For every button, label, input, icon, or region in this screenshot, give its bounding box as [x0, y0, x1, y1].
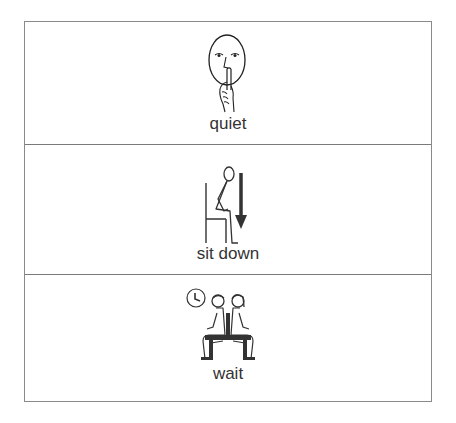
two-people-on-bench-clock-icon: [187, 289, 269, 361]
symbol-label: wait: [25, 364, 431, 384]
symbol-label: sit down: [25, 244, 431, 264]
symbol-card-sit-down[interactable]: sit down: [25, 144, 431, 274]
quiet-face-finger-on-lips-icon: [203, 34, 253, 116]
symbol-card-quiet[interactable]: quiet: [25, 22, 431, 144]
person-sitting-down-arrow-icon: [198, 163, 258, 245]
symbol-card-wait[interactable]: wait: [25, 274, 431, 403]
symbol-board: quiet sit down: [24, 21, 432, 402]
symbol-label: quiet: [25, 114, 431, 134]
